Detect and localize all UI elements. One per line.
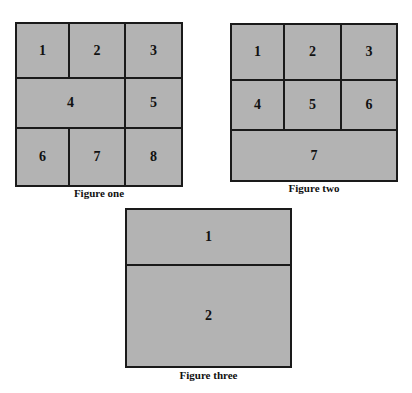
cell-1: 1	[127, 210, 290, 264]
cell-2: 2	[127, 266, 290, 366]
cell-1: 1	[17, 24, 68, 77]
cell-6: 6	[17, 129, 68, 185]
cell-7: 7	[232, 131, 396, 180]
figure-two: 1 2 3 4 5 6 7	[230, 23, 398, 182]
figure-three: 1 2	[125, 208, 292, 368]
cell-3: 3	[342, 25, 396, 79]
cell-2: 2	[285, 25, 340, 79]
cell-2: 2	[70, 24, 124, 77]
cell-3: 3	[126, 24, 181, 77]
cell-1: 1	[232, 25, 283, 79]
figure-two-caption: Figure two	[230, 182, 398, 194]
figure-one: 1 2 3 4 5 6 7 8	[15, 22, 183, 187]
cell-4: 4	[232, 81, 283, 129]
cell-6: 6	[342, 81, 396, 129]
cell-8: 8	[126, 129, 181, 185]
figure-three-caption: Figure three	[125, 369, 292, 381]
cell-7: 7	[70, 129, 124, 185]
cell-5: 5	[285, 81, 340, 129]
cell-5: 5	[126, 79, 181, 127]
figure-one-caption: Figure one	[15, 187, 183, 199]
cell-4: 4	[17, 79, 124, 127]
